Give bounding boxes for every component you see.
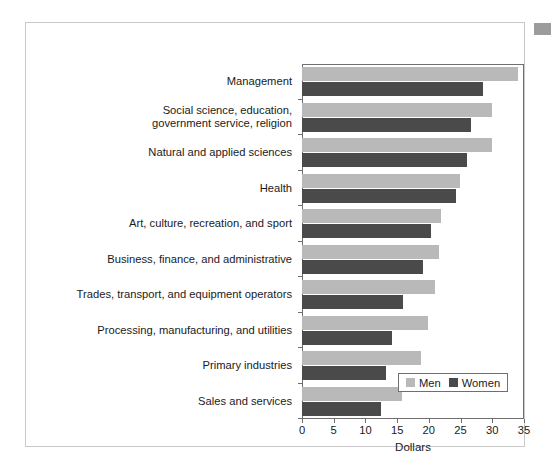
legend-entry-women: Women: [449, 377, 500, 389]
bar-men: [302, 280, 435, 294]
category-label: Business, finance, and administrative: [46, 253, 292, 267]
value-tick-label: 15: [382, 424, 412, 436]
legend-label-men: Men: [419, 377, 441, 389]
corner-swatch: [534, 23, 551, 35]
bar-men: [302, 316, 428, 330]
men-legend-swatch: [406, 378, 415, 387]
value-tick-mark: [365, 419, 366, 423]
bar-group: [302, 64, 524, 100]
bar-men: [302, 67, 518, 81]
value-tick-label: 0: [287, 424, 317, 436]
bar-men: [302, 245, 439, 259]
chart-legend: Men Women: [398, 373, 508, 392]
bar-women: [302, 295, 403, 309]
category-label: Primary industries: [46, 359, 292, 373]
bar-groups: [302, 64, 524, 419]
legend-entry-men: Men: [406, 377, 441, 389]
bar-women: [302, 402, 381, 416]
category-label: Natural and applied sciences: [46, 146, 292, 160]
bar-women: [302, 331, 392, 345]
category-label: Processing, manufacturing, and utilities: [46, 324, 292, 338]
bar-women: [302, 366, 386, 380]
figure-page: ManagementSocial science, education, gov…: [0, 0, 551, 467]
bar-group: [302, 100, 524, 136]
bar-group: [302, 206, 524, 242]
value-tick-label: 20: [414, 424, 444, 436]
bar-women: [302, 224, 431, 238]
value-tick-mark: [429, 419, 430, 423]
legend-label-women: Women: [462, 377, 500, 389]
bar-men: [302, 103, 492, 117]
value-tick-mark: [524, 419, 525, 423]
bar-men: [302, 138, 492, 152]
bar-women: [302, 260, 423, 274]
axis-title-dollars: Dollars: [302, 441, 524, 453]
category-label: Sales and services: [46, 395, 292, 409]
bar-women: [302, 153, 467, 167]
category-label: Health: [46, 182, 292, 196]
bar-men: [302, 209, 441, 223]
category-label: Social science, education, government se…: [46, 104, 292, 131]
value-tick-label: 30: [477, 424, 507, 436]
category-label: Trades, transport, and equipment operato…: [46, 288, 292, 302]
bar-men: [302, 351, 421, 365]
category-axis-labels: ManagementSocial science, education, gov…: [46, 64, 296, 419]
category-label: Art, culture, recreation, and sport: [46, 217, 292, 231]
value-tick-label: 25: [446, 424, 476, 436]
value-tick-mark: [461, 419, 462, 423]
value-tick-mark: [492, 419, 493, 423]
bar-group: [302, 242, 524, 278]
bar-women: [302, 118, 471, 132]
value-tick-label: 5: [319, 424, 349, 436]
bar-group: [302, 135, 524, 171]
figure-frame: ManagementSocial science, education, gov…: [25, 22, 525, 447]
value-tick-label: 10: [350, 424, 380, 436]
bar-women: [302, 82, 483, 96]
value-tick-mark: [302, 419, 303, 423]
women-legend-swatch: [449, 378, 458, 387]
value-tick-mark: [397, 419, 398, 423]
bar-women: [302, 189, 456, 203]
value-tick-label: 35: [509, 424, 539, 436]
bar-group: [302, 313, 524, 349]
category-label: Management: [46, 75, 292, 89]
bar-men: [302, 174, 460, 188]
bar-men: [302, 387, 402, 401]
bar-group: [302, 277, 524, 313]
bar-group: [302, 171, 524, 207]
value-tick-mark: [334, 419, 335, 423]
